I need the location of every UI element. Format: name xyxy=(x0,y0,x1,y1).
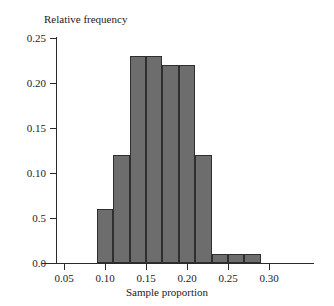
x-axis-line xyxy=(42,263,314,264)
y-tick-label: 0.15 xyxy=(6,123,46,134)
plot-area: 0.00.50.100.150.200.25 0.050.100.150.200… xyxy=(0,0,334,306)
histogram-bar xyxy=(162,65,178,263)
y-tick-mark xyxy=(50,38,56,39)
histogram-bar xyxy=(130,56,146,263)
x-tick-label: 0.25 xyxy=(208,272,248,284)
histogram-figure: Relative frequency 0.00.50.100.150.200.2… xyxy=(0,0,334,306)
x-tick-label: 0.20 xyxy=(167,272,207,284)
x-tick-mark xyxy=(187,264,188,270)
histogram-bar xyxy=(179,65,195,263)
y-tick-mark xyxy=(50,83,56,84)
y-axis-line xyxy=(56,37,57,264)
x-tick-mark xyxy=(269,264,270,270)
histogram-bar xyxy=(113,155,129,263)
x-tick-label: 0.05 xyxy=(44,272,84,284)
x-tick-mark xyxy=(228,264,229,270)
y-tick-mark xyxy=(50,128,56,129)
x-axis-title: Sample proportion xyxy=(0,286,334,299)
histogram-bar xyxy=(212,254,228,263)
y-tick-mark xyxy=(50,263,56,264)
y-tick-label: 0.0 xyxy=(6,258,46,269)
y-tick-label: 0.10 xyxy=(6,168,46,179)
x-tick-label: 0.30 xyxy=(249,272,289,284)
histogram-bar xyxy=(146,56,162,263)
x-tick-mark xyxy=(146,264,147,270)
y-tick-mark xyxy=(50,218,56,219)
y-tick-label: 0.20 xyxy=(6,78,46,89)
y-tick-mark xyxy=(50,173,56,174)
y-tick-label: 0.25 xyxy=(6,33,46,44)
histogram-bar xyxy=(244,254,260,263)
x-tick-label: 0.15 xyxy=(126,272,166,284)
histogram-bar xyxy=(195,155,211,263)
x-tick-mark xyxy=(64,264,65,270)
x-tick-mark xyxy=(105,264,106,270)
histogram-bar xyxy=(97,209,113,263)
y-tick-label: 0.5 xyxy=(6,213,46,224)
histogram-bar xyxy=(228,254,244,263)
x-tick-label: 0.10 xyxy=(85,272,125,284)
